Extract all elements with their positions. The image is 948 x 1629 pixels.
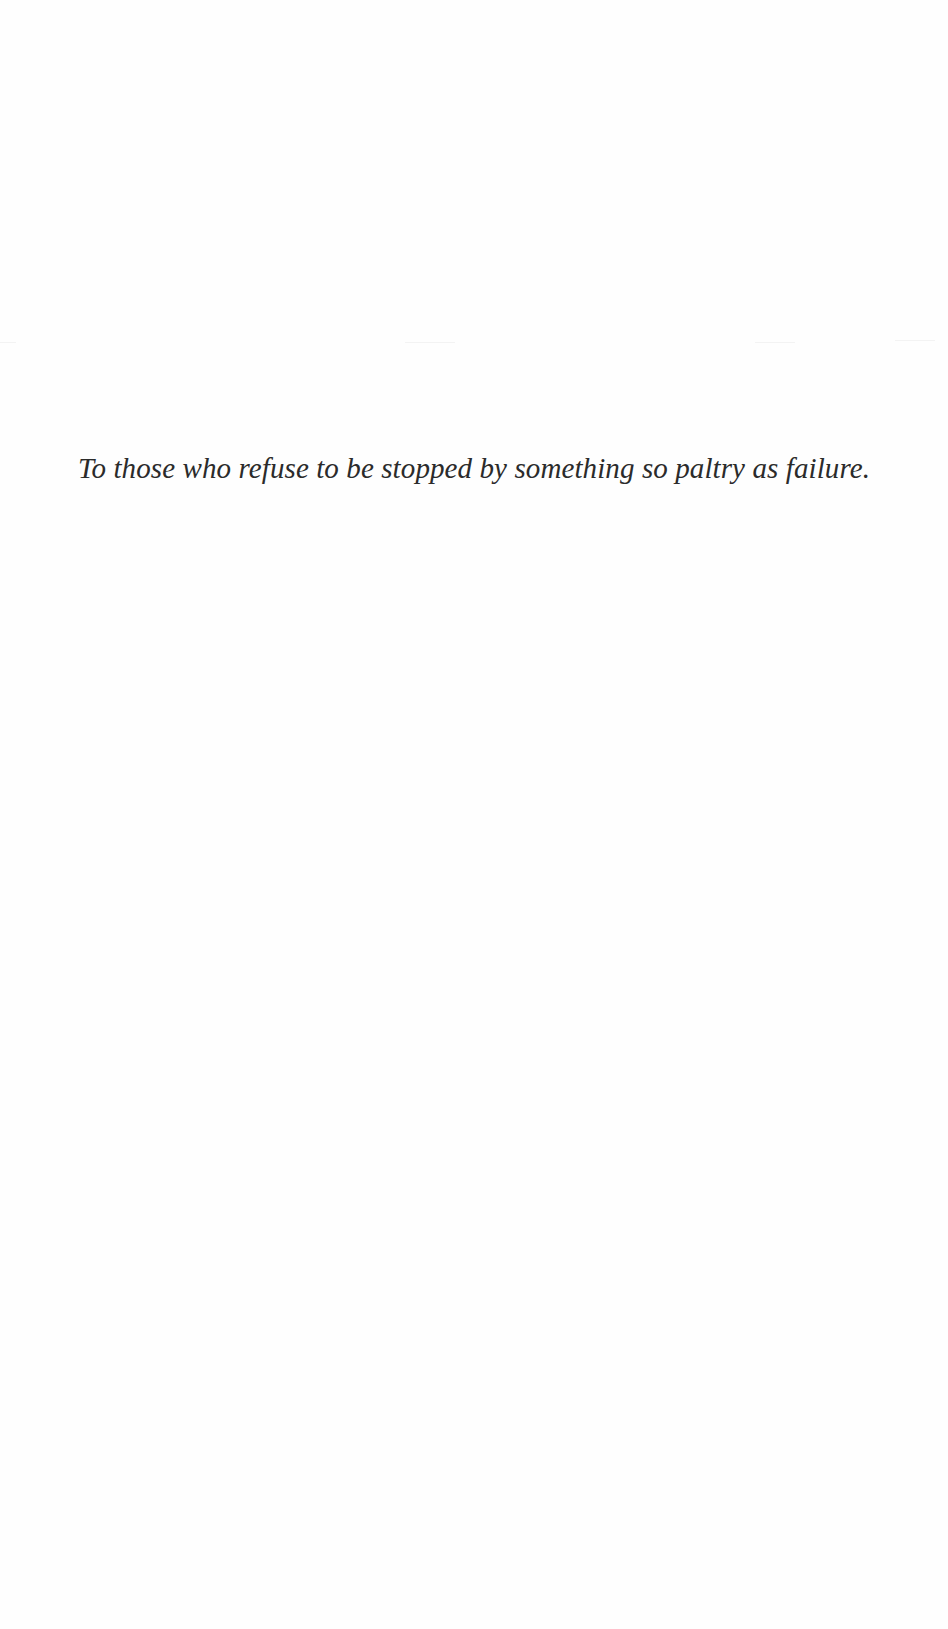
dedication-text: To those who refuse to be stopped by som… — [70, 448, 878, 489]
scan-artifact-line — [895, 340, 935, 341]
book-page: To those who refuse to be stopped by som… — [0, 0, 948, 1629]
scan-artifact-line — [405, 342, 455, 343]
scan-artifact-line — [0, 342, 16, 343]
scan-artifact-line — [755, 342, 795, 343]
